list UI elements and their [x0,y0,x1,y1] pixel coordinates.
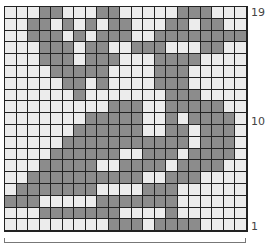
chart-cell [40,196,52,208]
chart-cell [235,219,247,231]
chart-cell [178,90,190,102]
chart-cell [224,54,236,66]
chart-cell [28,90,40,102]
chart-cell [166,66,178,78]
chart-cell [40,137,52,149]
chart-cell [235,19,247,31]
chart-cell [178,42,190,54]
chart-cell [86,172,98,184]
chart-cell [86,78,98,90]
chart-cell [5,42,17,54]
chart-cell [74,113,86,125]
chart-cell [132,42,144,54]
chart-cell [109,125,121,137]
chart-cell [120,101,132,113]
chart-cell [17,101,29,113]
chart-cell [74,54,86,66]
chart-cell [5,7,17,19]
chart-cell [28,113,40,125]
chart-cell [166,31,178,43]
chart-cell [97,113,109,125]
chart-cell [97,31,109,43]
chart-cell [178,31,190,43]
chart-cell [143,101,155,113]
chart-cell [97,208,109,220]
chart-cell [74,149,86,161]
chart-cell [189,42,201,54]
chart-cell [17,66,29,78]
chart-cell [178,125,190,137]
chart-cell [235,208,247,220]
chart-cell [40,208,52,220]
chart-cell [86,113,98,125]
chart-cell [178,101,190,113]
chart-cell [63,31,75,43]
chart-cell [155,66,167,78]
chart-cell [224,125,236,137]
chart-cell [132,31,144,43]
chart-cell [189,31,201,43]
chart-cell [166,149,178,161]
chart-cell [28,66,40,78]
chart-cell [97,184,109,196]
chart-cell [5,19,17,31]
chart-cell [5,172,17,184]
chart-cell [212,101,224,113]
chart-cell [212,219,224,231]
chart-cell [40,125,52,137]
chart-cell [120,42,132,54]
chart-cell [63,184,75,196]
chart-cell [74,19,86,31]
chart-cell [132,90,144,102]
chart-cell [51,7,63,19]
row-label-10: 10 [251,116,265,128]
chart-cell [132,184,144,196]
chart-cell [5,160,17,172]
chart-cell [143,149,155,161]
chart-cell [120,219,132,231]
chart-cell [189,113,201,125]
chart-cell [166,78,178,90]
chart-cell [212,31,224,43]
chart-cell [5,149,17,161]
chart-cell [97,160,109,172]
chart-cell [17,90,29,102]
chart-cell [28,219,40,231]
chart-cell [132,101,144,113]
chart-cell [212,160,224,172]
chart-cell [143,90,155,102]
chart-cell [17,137,29,149]
chart-cell [166,42,178,54]
chart-cell [74,196,86,208]
chart-cell [51,137,63,149]
chart-cell [224,137,236,149]
chart-cell [51,113,63,125]
chart-cell [40,54,52,66]
chart-cell [235,172,247,184]
chart-cell [120,66,132,78]
chart-cell [189,184,201,196]
chart-cell [74,66,86,78]
chart-cell [86,125,98,137]
chart-cell [74,42,86,54]
chart-cell [97,172,109,184]
chart-cell [74,172,86,184]
chart-cell [189,125,201,137]
chart-cell [132,78,144,90]
chart-cell [40,90,52,102]
chart-cell [224,90,236,102]
chart-cell [201,19,213,31]
chart-cell [40,149,52,161]
chart-cell [166,7,178,19]
chart-cell [86,66,98,78]
chart-cell [28,101,40,113]
chart-cell [63,19,75,31]
chart-cell [143,137,155,149]
chart-cell [28,125,40,137]
chart-cell [212,42,224,54]
chart-cell [155,208,167,220]
chart-cell [51,125,63,137]
chart-cell [40,172,52,184]
chart-cell [155,31,167,43]
chart-cell [166,90,178,102]
